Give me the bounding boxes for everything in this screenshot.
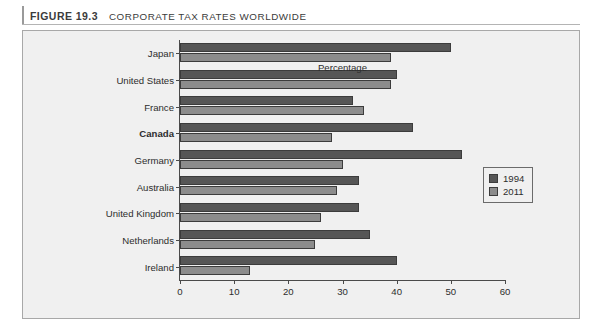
- x-axis-tick-label: 20: [283, 286, 294, 297]
- bar-1994: [180, 96, 353, 105]
- bar-1994: [180, 123, 413, 132]
- bar-1994: [180, 256, 397, 265]
- bar-2011: [180, 160, 343, 169]
- bar-row: France: [180, 93, 505, 120]
- bar-2011: [180, 106, 364, 115]
- category-label: Canada: [139, 128, 174, 139]
- legend-label-2011: 2011: [503, 186, 524, 197]
- chart-legend: 1994 2011: [483, 167, 533, 203]
- x-axis-tick: [288, 280, 289, 284]
- bar-row: Ireland: [180, 253, 505, 280]
- bar-row: Canada: [180, 120, 505, 147]
- bar-row: Netherlands: [180, 227, 505, 254]
- bar-2011: [180, 240, 315, 249]
- bar-1994: [180, 230, 370, 239]
- bar-rows: JapanUnited StatesFranceCanadaGermanyAus…: [180, 40, 505, 280]
- bar-2011: [180, 80, 391, 89]
- bar-1994: [180, 176, 359, 185]
- category-label: Ireland: [145, 261, 174, 272]
- x-axis-tick: [505, 280, 506, 284]
- bar-2011: [180, 133, 332, 142]
- legend-item-1994: 1994: [489, 172, 524, 185]
- x-axis-tick-label: 10: [229, 286, 240, 297]
- x-axis-tick-label: 30: [337, 286, 348, 297]
- bar-row: Australia: [180, 173, 505, 200]
- bar-1994: [180, 43, 451, 52]
- x-axis-tick-label: 0: [177, 286, 182, 297]
- x-axis-tick: [397, 280, 398, 284]
- caption-underline: [22, 24, 580, 25]
- category-label: Germany: [135, 154, 174, 165]
- x-axis-title: Percentage: [318, 62, 367, 73]
- category-label: Australia: [137, 181, 174, 192]
- bar-row: Germany: [180, 147, 505, 174]
- x-axis-tick: [180, 280, 181, 284]
- x-axis-tick-label: 40: [391, 286, 402, 297]
- x-axis-tick-label: 60: [500, 286, 511, 297]
- legend-label-1994: 1994: [503, 173, 524, 184]
- figure-caption: FIGURE 19.3 CORPORATE TAX RATES WORLDWID…: [30, 8, 307, 24]
- legend-swatch-2011: [489, 187, 498, 196]
- x-axis-tick: [343, 280, 344, 284]
- figure-number: FIGURE 19.3: [30, 10, 98, 22]
- bar-2011: [180, 186, 337, 195]
- category-label: France: [144, 101, 174, 112]
- figure-title: CORPORATE TAX RATES WORLDWIDE: [109, 11, 307, 22]
- bar-2011: [180, 213, 321, 222]
- bar-1994: [180, 150, 462, 159]
- category-label: Japan: [148, 48, 174, 59]
- category-label: United Kingdom: [106, 208, 174, 219]
- figure-container: FIGURE 19.3 CORPORATE TAX RATES WORLDWID…: [0, 0, 602, 328]
- legend-item-2011: 2011: [489, 185, 524, 198]
- x-axis-tick-label: 50: [445, 286, 456, 297]
- bar-2011: [180, 266, 250, 275]
- bar-row: United Kingdom: [180, 200, 505, 227]
- bar-1994: [180, 203, 359, 212]
- x-axis-tick: [451, 280, 452, 284]
- category-label: Netherlands: [122, 234, 174, 245]
- bar-2011: [180, 53, 391, 62]
- plot-area: JapanUnited StatesFranceCanadaGermanyAus…: [179, 40, 505, 281]
- caption-rule: [22, 6, 24, 24]
- category-label: United States: [116, 74, 174, 85]
- x-axis-tick: [234, 280, 235, 284]
- chart-panel: JapanUnited StatesFranceCanadaGermanyAus…: [22, 30, 580, 319]
- legend-swatch-1994: [489, 174, 498, 183]
